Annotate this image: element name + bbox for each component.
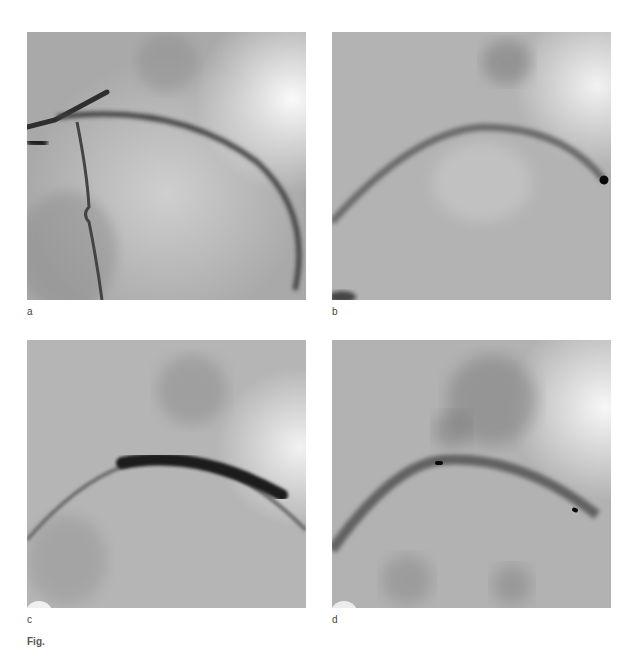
panel-label-b: b [332, 306, 338, 317]
angiogram-panel-c [27, 340, 306, 608]
panel-label-a: a [27, 306, 33, 317]
angiogram-panel-b [332, 32, 611, 300]
angiogram-panel-d [332, 340, 611, 608]
angiogram-image-d [332, 340, 611, 608]
angiogram-image-c [27, 340, 306, 608]
panel-label-d: d [332, 614, 338, 625]
angiogram-panel-a [27, 32, 306, 300]
angiogram-image-a [27, 32, 306, 300]
angiogram-image-b [332, 32, 611, 300]
panel-label-c: c [27, 614, 32, 625]
figure-caption: Fig. [27, 636, 45, 647]
